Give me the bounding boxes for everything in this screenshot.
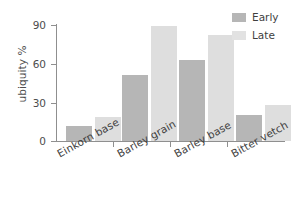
legend-label-late: Late [252, 30, 275, 41]
y-tick-label-30: 30 [6, 98, 46, 109]
y-tick-mark-30 [51, 103, 57, 104]
legend-swatch-icon-early [232, 13, 246, 22]
bar-barley-base-early [179, 60, 205, 141]
bar-barley-grain-early [122, 75, 148, 141]
y-tick-label-60: 60 [6, 59, 46, 70]
x-tick-mark-2 [170, 141, 171, 147]
legend-label-early: Early [252, 12, 279, 23]
x-tick-mark-3 [227, 141, 228, 147]
y-axis-line [56, 24, 57, 142]
bar-chart: ubiquity % 90 60 30 0 Einkorn base Barle… [0, 0, 308, 203]
y-tick-label-0: 0 [6, 136, 46, 147]
y-tick-label-90: 90 [6, 20, 46, 31]
y-tick-mark-0 [51, 141, 57, 142]
legend-item-early: Early [232, 10, 279, 25]
legend-item-late: Late [232, 28, 279, 43]
y-tick-mark-60 [51, 64, 57, 65]
legend: Early Late [232, 10, 279, 46]
legend-swatch-icon-late [232, 31, 246, 40]
x-tick-mark-1 [113, 141, 114, 147]
y-tick-mark-90 [51, 25, 57, 26]
